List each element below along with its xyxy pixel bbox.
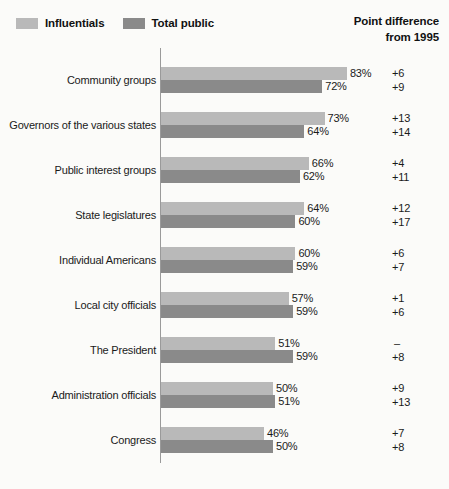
point-difference-total-public: +17 xyxy=(392,215,442,229)
point-difference-header: Point difference from 1995 xyxy=(354,14,439,45)
point-difference-group: +4+11 xyxy=(392,156,442,184)
bar-value-label: 60% xyxy=(298,246,319,260)
category-label: Individual Americans xyxy=(6,254,156,266)
bar-value-label: 59% xyxy=(296,259,317,273)
bar-total-public xyxy=(161,170,300,183)
point-difference-group: +12+17 xyxy=(392,201,442,229)
chart-row: Community groups83%72%+6+9 xyxy=(0,60,449,105)
bar-value-label: 64% xyxy=(307,201,328,215)
legend-swatch-total-public xyxy=(123,18,145,29)
point-difference-influentials: +6 xyxy=(392,246,442,260)
point-difference-influentials: – xyxy=(392,336,442,350)
point-difference-influentials: +7 xyxy=(392,426,442,440)
bar-total-public xyxy=(161,125,304,138)
point-difference-header-line2: from 1995 xyxy=(354,30,439,46)
bar-value-label: 59% xyxy=(296,304,317,318)
bar-influentials xyxy=(161,202,304,215)
chart-row: Administration officials50%51%+9+13 xyxy=(0,375,449,420)
category-label: Public interest groups xyxy=(6,164,156,176)
chart-row: Congress46%50%+7+8 xyxy=(0,420,449,465)
bar-value-label: 51% xyxy=(278,336,299,350)
bar-value-label: 83% xyxy=(350,66,371,80)
chart-row: Public interest groups66%62%+4+11 xyxy=(0,150,449,195)
bar-total-public xyxy=(161,80,322,93)
category-label: Congress xyxy=(6,434,156,446)
point-difference-influentials: +9 xyxy=(392,381,442,395)
bar-influentials xyxy=(161,247,295,260)
point-difference-header-line1: Point difference xyxy=(354,14,439,30)
bar-influentials xyxy=(161,337,275,350)
point-difference-total-public: +9 xyxy=(392,80,442,94)
bar-value-label: 60% xyxy=(298,214,319,228)
point-difference-total-public: +6 xyxy=(392,305,442,319)
bar-influentials xyxy=(161,382,273,395)
point-difference-total-public: +14 xyxy=(392,125,442,139)
bar-value-label: 66% xyxy=(312,156,333,170)
chart-row: Governors of the various states73%64%+13… xyxy=(0,105,449,150)
bar-influentials xyxy=(161,67,347,80)
chart-row: Individual Americans60%59%+6+7 xyxy=(0,240,449,285)
bar-total-public xyxy=(161,260,293,273)
point-difference-group: +1+6 xyxy=(392,291,442,319)
bar-value-label: 50% xyxy=(276,381,297,395)
bar-total-public xyxy=(161,215,295,228)
bar-value-label: 73% xyxy=(328,111,349,125)
legend-item-influentials: Influentials xyxy=(16,18,105,30)
bar-influentials xyxy=(161,427,264,440)
bar-total-public xyxy=(161,395,275,408)
category-label: The President xyxy=(6,344,156,356)
legend-label-total-public: Total public xyxy=(152,18,214,30)
bar-influentials xyxy=(161,112,325,125)
category-label: Governors of the various states xyxy=(6,119,156,131)
bar-value-label: 57% xyxy=(292,291,313,305)
bar-influentials xyxy=(161,157,309,170)
category-label: State legislatures xyxy=(6,209,156,221)
legend-item-total-public: Total public xyxy=(123,18,214,30)
category-label: Community groups xyxy=(6,74,156,86)
point-difference-group: +6+7 xyxy=(392,246,442,274)
legend-label-influentials: Influentials xyxy=(45,18,105,30)
bar-influentials xyxy=(161,292,289,305)
point-difference-influentials: +1 xyxy=(392,291,442,305)
bar-total-public xyxy=(161,305,293,318)
point-difference-group: +13+14 xyxy=(392,111,442,139)
point-difference-total-public: +13 xyxy=(392,395,442,409)
point-difference-influentials: +13 xyxy=(392,111,442,125)
point-difference-total-public: +11 xyxy=(392,170,442,184)
bar-total-public xyxy=(161,440,273,453)
bar-value-label: 46% xyxy=(267,426,288,440)
chart-row: State legislatures64%60%+12+17 xyxy=(0,195,449,240)
chart-row: The President51%59%–+8 xyxy=(0,330,449,375)
legend-swatch-influentials xyxy=(16,18,38,29)
point-difference-influentials: +12 xyxy=(392,201,442,215)
category-label: Administration officials xyxy=(6,389,156,401)
chart-row: Local city officials57%59%+1+6 xyxy=(0,285,449,330)
bar-total-public xyxy=(161,350,293,363)
point-difference-group: +7+8 xyxy=(392,426,442,454)
point-difference-group: +9+13 xyxy=(392,381,442,409)
bar-value-label: 64% xyxy=(307,124,328,138)
chart-rows: Community groups83%72%+6+9Governors of t… xyxy=(0,60,449,465)
point-difference-influentials: +4 xyxy=(392,156,442,170)
point-difference-total-public: +8 xyxy=(392,350,442,364)
point-difference-total-public: +7 xyxy=(392,260,442,274)
bar-value-label: 62% xyxy=(303,169,324,183)
point-difference-total-public: +8 xyxy=(392,440,442,454)
bar-value-label: 72% xyxy=(325,79,346,93)
point-difference-influentials: +6 xyxy=(392,66,442,80)
point-difference-group: –+8 xyxy=(392,336,442,364)
point-difference-group: +6+9 xyxy=(392,66,442,94)
bar-value-label: 51% xyxy=(278,394,299,408)
bar-value-label: 50% xyxy=(276,439,297,453)
chart-legend: Influentials Total public xyxy=(16,18,214,30)
bar-value-label: 59% xyxy=(296,349,317,363)
chart-container: Influentials Total public Point differen… xyxy=(0,0,449,489)
category-label: Local city officials xyxy=(6,299,156,311)
